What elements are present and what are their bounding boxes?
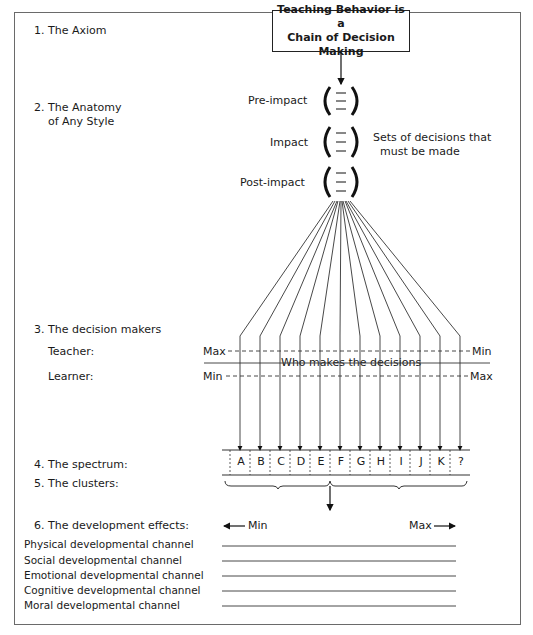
pre-impact-set-icon [325, 87, 357, 115]
clusters-brace [225, 481, 467, 489]
impact-set-icon [325, 127, 357, 157]
decision-fan-lines [240, 201, 460, 450]
channel-lines [222, 546, 456, 606]
diagram-graphics [0, 0, 533, 635]
post-impact-set-icon [325, 167, 357, 197]
spectrum-bar [222, 450, 470, 475]
